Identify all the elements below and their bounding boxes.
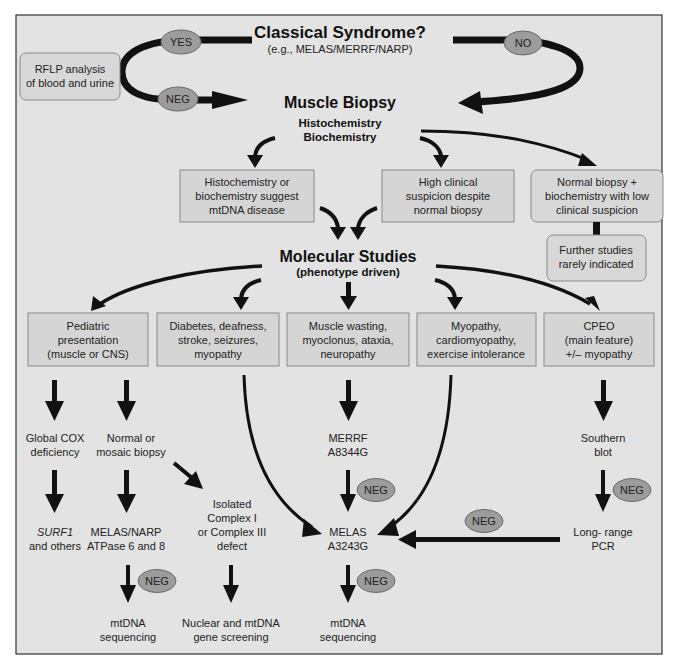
svg-text:of blood and urine: of blood and urine [26, 77, 114, 89]
arrow-melas-to-seq [346, 565, 350, 587]
box-histochemistry-suggest: Histochemistry or biochemistry suggest m… [180, 170, 314, 222]
neg-label-melas-narp: NEG [138, 570, 176, 593]
svg-text:biochemistry with low: biochemistry with low [545, 190, 649, 202]
phenotype-driven-label: (phenotype driven) [296, 266, 400, 278]
svg-text:mtDNA: mtDNA [110, 617, 146, 629]
box-further-studies: Further studies rarely indicated [547, 235, 646, 281]
arrow-isolated-to-screening [229, 565, 233, 587]
svg-text:myoclonus, ataxia,: myoclonus, ataxia, [302, 334, 393, 346]
svg-text:MERRF: MERRF [328, 432, 367, 444]
svg-text:exercise intolerance: exercise intolerance [427, 348, 525, 360]
svg-text:Isolated: Isolated [213, 498, 252, 510]
svg-text:sequencing: sequencing [100, 631, 156, 643]
svg-text:myopathy: myopathy [194, 348, 242, 360]
svg-text:mosaic biopsy: mosaic biopsy [96, 446, 166, 458]
svg-text:MELAS/NARP: MELAS/NARP [91, 526, 162, 538]
svg-text:SURF1: SURF1 [37, 526, 73, 538]
svg-text:mtDNA disease: mtDNA disease [209, 204, 285, 216]
svg-text:Muscle wasting,: Muscle wasting, [309, 320, 387, 332]
svg-text:MELAS: MELAS [329, 526, 366, 538]
svg-text:gene screening: gene screening [193, 631, 268, 643]
svg-text:Pediatric: Pediatric [67, 320, 110, 332]
no-label: NO [504, 31, 542, 55]
neg-label-southern: NEG [613, 479, 651, 502]
svg-text:Normal biopsy +: Normal biopsy + [557, 176, 637, 188]
classical-syndrome-subtitle: (e.g., MELAS/MERRF/NARP) [268, 43, 413, 55]
svg-text:Nuclear and mtDNA: Nuclear and mtDNA [182, 617, 280, 629]
biochemistry-label: Biochemistry [304, 131, 377, 143]
svg-text:ATPase 6 and 8: ATPase 6 and 8 [87, 540, 165, 552]
svg-text:A3243G: A3243G [328, 540, 368, 552]
arrow-merrf-to-melas [346, 470, 350, 496]
svg-text:(main feature): (main feature) [565, 334, 633, 346]
neg-label-melas: NEG [357, 570, 395, 593]
svg-text:cardiomyopathy,: cardiomyopathy, [436, 334, 516, 346]
svg-text:NEG: NEG [166, 93, 190, 105]
svg-text:Long- range: Long- range [573, 526, 632, 538]
svg-text:sequencing: sequencing [320, 631, 376, 643]
arrow-to-muscle-wasting [346, 282, 351, 298]
svg-text:Southern: Southern [581, 432, 626, 444]
svg-text:suspicion despite: suspicion despite [406, 190, 490, 202]
box-muscle-wasting: Muscle wasting, myoclonus, ataxia, neuro… [287, 313, 409, 366]
svg-text:biochemistry suggest: biochemistry suggest [195, 190, 298, 202]
svg-text:Complex I: Complex I [207, 512, 257, 524]
svg-text:neuropathy: neuropathy [320, 348, 376, 360]
svg-text:Further studies: Further studies [559, 244, 633, 256]
svg-text:clinical suspicion: clinical suspicion [556, 204, 638, 216]
svg-text:defect: defect [217, 540, 247, 552]
svg-text:Diabetes, deafness,: Diabetes, deafness, [169, 320, 266, 332]
neg-label-long-range: NEG [465, 510, 503, 533]
svg-text:RFLP analysis: RFLP analysis [35, 63, 106, 75]
box-pediatric: Pediatric presentation (muscle or CNS) [28, 313, 148, 366]
svg-text:CPEO: CPEO [583, 320, 615, 332]
muscle-biopsy-title: Muscle Biopsy [284, 94, 396, 111]
molecular-studies-title: Molecular Studies [280, 248, 417, 265]
histochemistry-label: Histochemistry [298, 117, 382, 129]
svg-text:PCR: PCR [591, 540, 614, 552]
arrow-to-normal-mosaic [124, 380, 129, 404]
svg-text:or Complex III: or Complex III [198, 526, 266, 538]
svg-text:Normal or: Normal or [107, 432, 156, 444]
arrow-to-global-cox [52, 380, 57, 404]
svg-text:+/– myopathy: +/– myopathy [566, 348, 633, 360]
box-diabetes-deafness: Diabetes, deafness, stroke, seizures, my… [157, 313, 279, 366]
box-high-clinical-suspicion: High clinical suspicion despite normal b… [382, 170, 514, 222]
neg-label-top: NEG [158, 87, 198, 111]
svg-text:mtDNA: mtDNA [330, 617, 366, 629]
box-normal-biopsy: Normal biopsy + biochemistry with low cl… [531, 170, 663, 222]
rflp-analysis-box: RFLP analysis of blood and urine [20, 53, 120, 100]
connector-bar [593, 222, 600, 235]
svg-text:NEG: NEG [620, 484, 644, 496]
arrow-to-melas-narp [124, 470, 129, 496]
box-myopathy-cardiomyopathy: Myopathy, cardiomyopathy, exercise intol… [417, 313, 536, 366]
svg-text:NEG: NEG [364, 484, 388, 496]
svg-text:rarely indicated: rarely indicated [559, 258, 634, 270]
svg-text:YES: YES [170, 36, 192, 48]
arrow-to-surf1 [52, 470, 57, 496]
svg-text:presentation: presentation [58, 334, 119, 346]
svg-text:Histochemistry or: Histochemistry or [205, 176, 290, 188]
svg-text:NEG: NEG [364, 575, 388, 587]
svg-text:NO: NO [515, 37, 532, 49]
svg-text:NEG: NEG [472, 515, 496, 527]
arrow-southern-to-long-range [601, 470, 605, 496]
svg-text:Myopathy,: Myopathy, [451, 320, 501, 332]
svg-text:A8344G: A8344G [328, 446, 368, 458]
svg-text:normal biopsy: normal biopsy [414, 204, 483, 216]
arrow-to-southern [601, 380, 606, 404]
svg-text:blot: blot [594, 446, 612, 458]
arrow-melas-narp-to-seq [126, 565, 130, 587]
svg-text:and others: and others [29, 540, 81, 552]
yes-label: YES [161, 30, 201, 54]
classical-syndrome-title: Classical Syndrome? [254, 23, 426, 42]
svg-text:(muscle or CNS): (muscle or CNS) [47, 348, 128, 360]
svg-text:High clinical: High clinical [419, 176, 478, 188]
svg-text:stroke, seizures,: stroke, seizures, [178, 334, 258, 346]
svg-text:deficiency: deficiency [31, 446, 80, 458]
arrow-long-range-to-melas [414, 537, 560, 542]
neg-label-merrf: NEG [357, 479, 395, 502]
arrow-to-merrf [346, 380, 351, 404]
flowchart: Classical Syndrome? (e.g., MELAS/MERRF/N… [0, 0, 680, 669]
svg-text:Global COX: Global COX [26, 432, 85, 444]
